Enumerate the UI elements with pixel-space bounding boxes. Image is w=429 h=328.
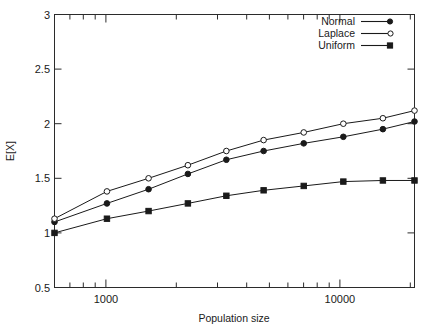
data-point	[146, 186, 152, 192]
data-point	[52, 216, 58, 222]
data-point	[104, 189, 110, 195]
data-point	[412, 108, 418, 114]
data-point	[301, 183, 306, 188]
data-point	[224, 148, 230, 154]
data-point	[104, 201, 110, 207]
y-tick-label-2: 2	[44, 118, 50, 130]
data-point	[261, 137, 267, 143]
x-tick-label-10000: 10000	[325, 293, 356, 305]
y-tick-label-1: 1	[44, 227, 50, 239]
legend-marker-laplace	[388, 31, 393, 36]
data-point	[224, 157, 230, 163]
x-axis-title: Population size	[198, 312, 269, 324]
y-tick-label-2p5: 2.5	[35, 63, 50, 75]
y-tick-label-0p5: 0.5	[35, 282, 50, 294]
y-tick-label-1p5: 1.5	[35, 172, 50, 184]
data-point	[146, 208, 151, 213]
data-point	[412, 119, 418, 125]
data-point	[380, 115, 386, 121]
data-point	[185, 201, 190, 206]
x-tick-label-1000: 1000	[94, 293, 118, 305]
data-point	[341, 179, 346, 184]
legend-label-laplace: Laplace	[318, 27, 355, 39]
data-point	[380, 178, 385, 183]
data-point	[224, 193, 229, 198]
data-point	[301, 130, 307, 136]
legend-marker-uniform	[387, 43, 392, 48]
data-point	[412, 178, 417, 183]
data-point	[52, 230, 57, 235]
data-point	[185, 171, 191, 177]
y-tick-label-3: 3	[44, 9, 50, 21]
data-point	[341, 121, 347, 127]
legend-marker-normal	[387, 19, 392, 24]
data-point	[261, 148, 267, 154]
data-point	[104, 216, 109, 221]
data-point	[380, 126, 386, 132]
legend-label-normal: Normal	[321, 15, 355, 27]
data-point	[341, 134, 347, 140]
data-point	[261, 188, 266, 193]
data-point	[301, 141, 307, 147]
legend-label-uniform: Uniform	[318, 39, 355, 51]
data-point	[146, 176, 152, 182]
chart-svg: 3 2.5 2 1.5 1 0.5	[0, 0, 429, 328]
y-axis-title: E[X]	[4, 141, 16, 161]
chart-figure: 3 2.5 2 1.5 1 0.5	[0, 0, 429, 328]
data-point	[185, 162, 191, 168]
